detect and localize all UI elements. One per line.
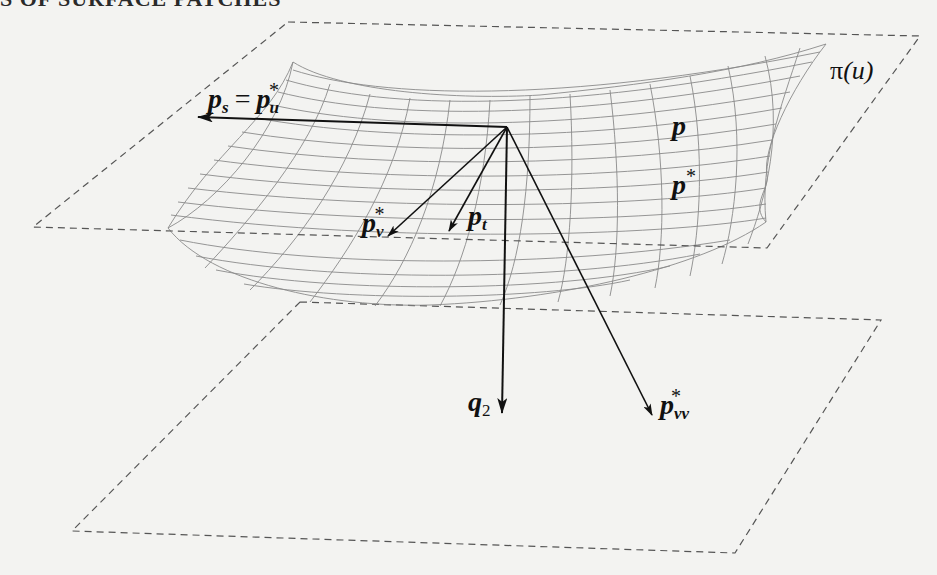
pstar-sup: * [686,165,696,187]
pv-sup: * [375,203,385,225]
vector-pvv-star [507,127,652,415]
lower-plane [72,302,881,553]
label-p-curve: p [672,112,686,140]
pt-sub: t [482,215,487,234]
pi-argument: (u) [843,56,873,85]
label-p-star: p* [672,166,696,199]
vector-q2 [502,127,507,413]
pv-main: p [362,207,376,238]
q2-main: q [468,386,482,417]
label-pvv-star: pvv* [660,386,681,422]
ps-main: p [208,83,222,114]
ps-sub: s [222,98,229,117]
pvv-sup: * [671,385,681,407]
pt-main: p [468,200,482,231]
pu-sup: * [269,79,279,101]
vector-ps [198,117,507,127]
pstar-main: p [672,169,686,200]
p-curve-main: p [672,110,686,141]
equals-sign: = [235,83,251,114]
label-pv-star: pv* [362,204,385,240]
surface-patch-figure [0,0,937,575]
label-pt: pt [468,202,487,233]
label-ps-equals-pu-star: ps=pu* [208,80,279,116]
q2-sub: 2 [482,401,491,420]
label-q2: q2 [468,388,491,419]
label-pi-u: π(u) [830,58,873,84]
pi-symbol: π [830,56,843,85]
